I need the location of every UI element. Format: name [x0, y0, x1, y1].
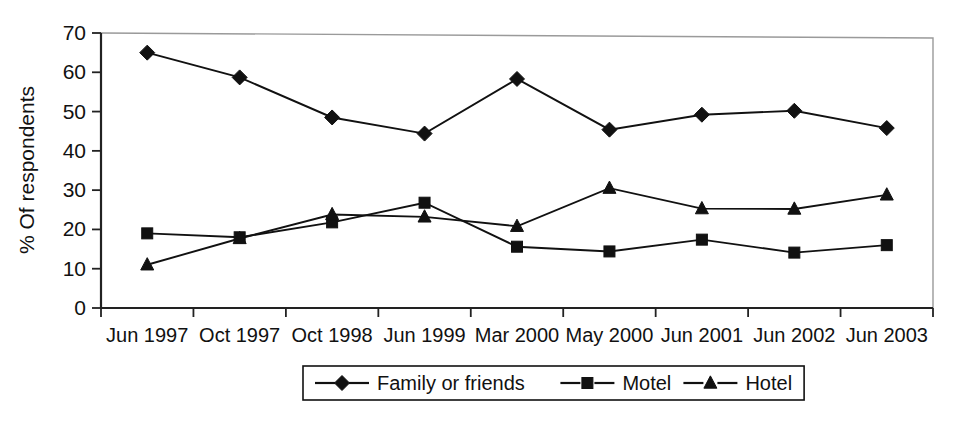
y-tick-label: 30 — [63, 178, 86, 201]
line-chart: 010203040506070 Jun 1997Oct 1997Oct 1998… — [0, 0, 962, 431]
data-point-triangle-icon — [326, 207, 339, 219]
data-point-square-icon — [881, 240, 892, 251]
data-point-square-icon — [419, 197, 430, 208]
data-point-square-icon — [604, 246, 615, 257]
x-tick-label: Jun 2003 — [846, 324, 928, 346]
x-axis-ticks — [101, 308, 933, 317]
y-tick-label: 50 — [63, 100, 86, 123]
data-point-square-icon — [512, 241, 523, 252]
legend-label: Hotel — [745, 372, 792, 394]
data-point-diamond-icon — [879, 121, 894, 136]
x-tick-label: Oct 1998 — [292, 324, 373, 346]
series-markers — [140, 45, 895, 270]
data-point-diamond-icon — [140, 45, 155, 60]
y-axis-title: % Of respondents — [15, 86, 38, 254]
x-tick-label: Jun 1997 — [106, 324, 188, 346]
y-tick-label: 10 — [63, 257, 86, 280]
x-tick-label: Jun 2002 — [753, 324, 835, 346]
y-axis-tick-labels: 010203040506070 — [63, 21, 86, 319]
y-tick-label: 20 — [63, 217, 86, 240]
y-tick-label: 70 — [63, 21, 86, 44]
x-tick-label: Oct 1997 — [199, 324, 280, 346]
y-axis-ticks — [92, 33, 101, 308]
legend-marker-square-icon — [582, 378, 593, 389]
x-tick-label: Jun 1999 — [383, 324, 465, 346]
data-point-square-icon — [696, 234, 707, 245]
data-point-diamond-icon — [787, 103, 802, 118]
x-tick-label: Jun 2001 — [661, 324, 743, 346]
data-point-diamond-icon — [602, 122, 617, 137]
data-point-diamond-icon — [694, 107, 709, 122]
x-tick-label: May 2000 — [566, 324, 654, 346]
data-point-square-icon — [142, 228, 153, 239]
data-point-diamond-icon — [417, 126, 432, 141]
data-point-triangle-icon — [880, 188, 893, 200]
data-point-triangle-icon — [603, 181, 616, 193]
data-point-diamond-icon — [325, 110, 340, 125]
data-point-square-icon — [789, 247, 800, 258]
series-line-1 — [147, 53, 887, 134]
data-point-diamond-icon — [510, 71, 525, 86]
y-tick-label: 0 — [74, 296, 86, 319]
data-point-diamond-icon — [232, 70, 247, 85]
x-tick-label: Mar 2000 — [475, 324, 560, 346]
y-tick-label: 60 — [63, 60, 86, 83]
chart-legend: Family or friendsMotelHotel — [303, 366, 804, 400]
legend-label: Motel — [622, 372, 671, 394]
chart-container: 010203040506070 Jun 1997Oct 1997Oct 1998… — [0, 0, 962, 431]
x-axis-tick-labels: Jun 1997Oct 1997Oct 1998Jun 1999Mar 2000… — [106, 324, 928, 346]
y-tick-label: 40 — [63, 139, 86, 162]
legend-label: Family or friends — [377, 372, 525, 394]
